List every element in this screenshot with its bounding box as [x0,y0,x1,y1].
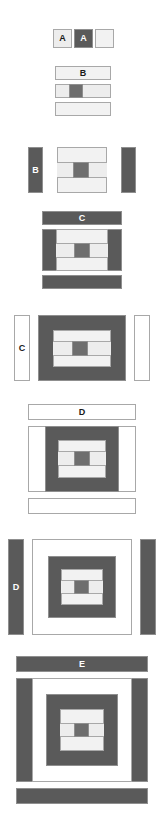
b-bottom-bar [55,102,111,116]
e-top-bar: E [16,656,148,672]
c-side-bar-right [134,315,150,381]
d-top-bar: D [28,404,136,420]
b-top-bar-text: B [80,69,87,78]
b-middle-core [69,84,83,98]
d-side-bar-left-text: D [13,583,20,592]
b-top-bar: B [55,66,111,80]
a-dark-labeled: A [74,29,93,48]
a-light-labeled-text: A [59,34,66,43]
c-bottom-bar [42,275,122,289]
c-side-bar-left: C [14,315,30,381]
d-side-bar-right [140,539,156,635]
b-side-bar-left: B [28,147,43,193]
d-side-bar-left: D [8,539,24,635]
e-middle-core [74,723,89,737]
b-middle-row [55,84,111,98]
a-light-labeled: A [53,29,72,48]
d-outer-core [74,580,89,594]
c-top-bar: C [42,211,122,225]
c-outer-core [72,341,88,356]
group-a-swatches [0,0,164,22]
e-bottom-bar [16,788,148,804]
nested-box-diagram: A A B B C C D [0,0,164,816]
d-middle-core [74,451,90,466]
d-bottom-bar [28,498,136,514]
c-top-bar-text: C [79,214,86,223]
d-top-bar-text: D [79,408,86,417]
e-top-bar-text: E [79,660,85,669]
a-dark-labeled-text: A [80,34,87,43]
a-light-empty [95,29,114,48]
b-side-bar-left-text: B [32,166,39,175]
c-side-bar-left-text: C [19,344,26,353]
b-nested-core [73,162,89,178]
b-side-bar-right [121,147,136,193]
c-middle-core [74,243,90,258]
